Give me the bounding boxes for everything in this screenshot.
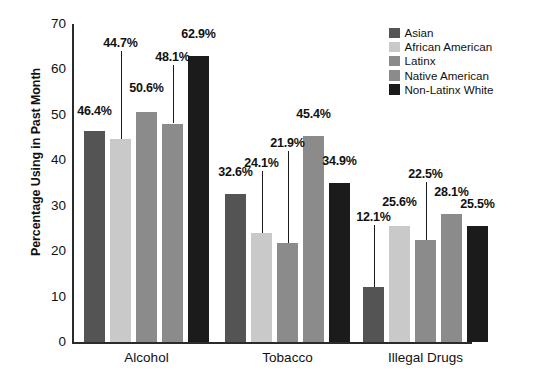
y-tick-label: 40	[38, 153, 66, 167]
legend-label: Native American	[405, 70, 489, 82]
legend-label: African American	[405, 41, 493, 53]
x-axis-label: Alcohol	[124, 350, 168, 365]
bar	[188, 56, 209, 342]
y-tick-label: 0	[38, 335, 66, 349]
legend-item: Asian	[389, 26, 493, 40]
data-label: 25.5%	[460, 197, 494, 211]
leader-line	[374, 225, 375, 287]
legend-swatch-icon	[389, 42, 400, 53]
legend-label: Asian	[405, 27, 434, 39]
y-tick-label: 10	[38, 290, 66, 304]
data-label: 34.9%	[322, 154, 356, 168]
data-label: 44.7%	[103, 36, 137, 50]
legend-label: Latinx	[405, 55, 436, 67]
bar	[84, 131, 105, 342]
leader-line	[288, 151, 289, 243]
x-axis-label: Illegal Drugs	[388, 350, 463, 365]
data-label: 21.9%	[270, 136, 304, 150]
data-label: 46.4%	[77, 104, 111, 118]
bar	[415, 240, 436, 342]
leader-line	[121, 51, 122, 139]
bar	[136, 112, 157, 342]
data-label: 48.1%	[155, 50, 189, 64]
x-axis-label: Tobacco	[262, 350, 312, 365]
leader-line	[173, 65, 174, 123]
bar-chart: Percentage Using in Past Month 010203040…	[0, 0, 541, 381]
x-axis-line	[72, 342, 472, 344]
legend-item: African American	[389, 40, 493, 54]
bar	[225, 194, 246, 342]
legend: AsianAfrican AmericanLatinxNative Americ…	[389, 26, 493, 97]
legend-label: Non-Latinx White	[405, 84, 494, 96]
legend-item: Native American	[389, 69, 493, 83]
bar	[363, 287, 384, 342]
data-label: 22.5%	[408, 167, 442, 181]
legend-swatch-icon	[389, 84, 400, 95]
data-label: 50.6%	[129, 81, 163, 95]
data-label: 24.1%	[244, 156, 278, 170]
data-label: 62.9%	[181, 27, 215, 41]
data-label: 25.6%	[382, 195, 416, 209]
bar	[162, 124, 183, 343]
legend-swatch-icon	[389, 70, 400, 81]
legend-item: Non-Latinx White	[389, 83, 493, 97]
y-tick-label: 60	[38, 62, 66, 76]
bar	[277, 243, 298, 342]
y-tick-label: 20	[38, 244, 66, 258]
y-tick-label: 30	[38, 199, 66, 213]
bar	[389, 226, 410, 342]
data-label: 45.4%	[296, 107, 330, 121]
y-tick-label: 50	[38, 108, 66, 122]
bar	[251, 233, 272, 342]
bar	[329, 183, 350, 342]
bar	[110, 139, 131, 342]
leader-line	[262, 171, 263, 233]
y-tick-label: 70	[38, 17, 66, 31]
leader-line	[426, 182, 427, 240]
bar	[467, 226, 488, 342]
legend-item: Latinx	[389, 54, 493, 68]
bar	[303, 136, 324, 342]
bar	[441, 214, 462, 342]
legend-swatch-icon	[389, 28, 400, 39]
data-label: 12.1%	[356, 210, 390, 224]
legend-swatch-icon	[389, 56, 400, 67]
